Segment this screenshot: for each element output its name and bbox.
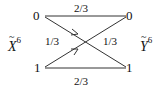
tilde-accent: ~ (9, 32, 14, 42)
prob-label-0-1: 1/3 (45, 36, 59, 47)
prob-label-1-0: 1/3 (103, 36, 117, 47)
tilde-accent: ~ (141, 32, 146, 42)
output-variable-label: ~Y6 (140, 38, 152, 54)
prob-label-0-0: 2/3 (74, 3, 88, 14)
output-node-1: 1 (126, 61, 133, 74)
input-node-0: 0 (33, 9, 40, 22)
input-node-1: 1 (34, 61, 41, 74)
prob-label-1-1: 2/3 (74, 76, 88, 87)
output-node-0: 0 (126, 9, 133, 22)
input-variable-label: ~X6 (8, 38, 21, 54)
